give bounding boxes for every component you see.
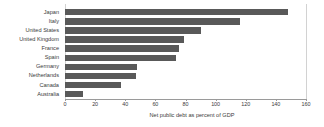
category-label-row: Spain xyxy=(0,53,62,62)
x-axis-tick-label: 120 xyxy=(241,102,250,107)
category-label-row: Germany xyxy=(0,63,62,72)
x-axis-title-text: Net public debt as percent of GDP xyxy=(90,113,235,119)
category-label: Australia xyxy=(37,92,59,98)
bar xyxy=(65,82,121,88)
bar xyxy=(65,64,137,70)
category-label-row: France xyxy=(0,44,62,53)
category-axis-labels: JapanItalyUnited StatesUnited KingdomFra… xyxy=(0,8,62,99)
x-axis-ticks: 020406080100120140160 xyxy=(0,99,324,111)
x-axis-tick-label: 40 xyxy=(122,102,128,107)
category-label-row: Japan xyxy=(0,8,62,17)
category-label-row: United Kingdom xyxy=(0,35,62,44)
bar-row xyxy=(65,72,306,81)
category-label: Canada xyxy=(39,83,59,89)
bar-series xyxy=(65,8,306,99)
x-axis-tick-label: 100 xyxy=(211,102,220,107)
category-label: France xyxy=(42,46,59,52)
bar-chart: JapanItalyUnited StatesUnited KingdomFra… xyxy=(0,0,324,127)
plot-area xyxy=(65,8,306,99)
category-label: Germany xyxy=(36,64,59,70)
category-label-row: Australia xyxy=(0,90,62,99)
bar-row xyxy=(65,81,306,90)
category-label: United Kingdom xyxy=(19,37,59,43)
bar xyxy=(65,73,136,79)
x-axis-tick-label: 60 xyxy=(152,102,158,107)
bar xyxy=(65,36,184,42)
category-label-row: Netherlands xyxy=(0,72,62,81)
bar-row xyxy=(65,17,306,26)
bar-row xyxy=(65,53,306,62)
bar-row xyxy=(65,26,306,35)
category-label: Netherlands xyxy=(29,73,59,79)
x-axis-title: Net public debt as percent of GDP xyxy=(0,113,324,119)
category-label: Spain xyxy=(45,55,59,61)
x-axis-tick-label: 0 xyxy=(64,102,67,107)
bar-row xyxy=(65,63,306,72)
bar xyxy=(65,9,288,15)
bar-row xyxy=(65,90,306,99)
x-axis-tick-label: 160 xyxy=(302,102,311,107)
bar xyxy=(65,18,240,24)
bar xyxy=(65,91,83,97)
bar xyxy=(65,45,179,51)
bar-row xyxy=(65,44,306,53)
category-label-row: Italy xyxy=(0,17,62,26)
x-axis-tick-label: 80 xyxy=(183,102,189,107)
category-label: United States xyxy=(25,28,59,34)
bar-row xyxy=(65,35,306,44)
bar xyxy=(65,55,176,61)
category-label: Japan xyxy=(44,10,59,16)
plot-right-border xyxy=(306,4,307,99)
category-label-row: United States xyxy=(0,26,62,35)
category-label-row: Canada xyxy=(0,81,62,90)
bar-row xyxy=(65,8,306,17)
category-label: Italy xyxy=(49,19,59,25)
x-axis-tick-label: 20 xyxy=(92,102,98,107)
x-axis-tick-label: 140 xyxy=(271,102,280,107)
bar xyxy=(65,27,201,33)
